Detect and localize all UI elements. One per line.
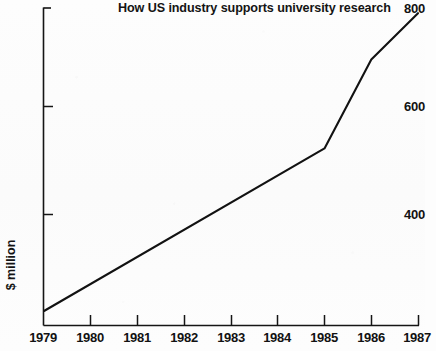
x-axis-tick-label-1986: 1986 [348,330,394,345]
x-axis-tick-label-1985: 1985 [301,330,347,345]
x-axis-tick-label-1979: 1979 [20,330,66,345]
x-axis-tick-label-1987: 1987 [394,330,436,345]
x-axis-tick-label-1982: 1982 [161,330,207,345]
x-axis-tick-label-1981: 1981 [114,330,160,345]
y-axis-ticks [44,107,54,215]
x-axis-tick-label-1983: 1983 [208,330,254,345]
x-axis-ticks [91,315,419,326]
x-axis-tick-label-1984: 1984 [254,330,300,345]
data-series-line [44,13,418,311]
x-axis-tick-label-1980: 1980 [67,330,113,345]
